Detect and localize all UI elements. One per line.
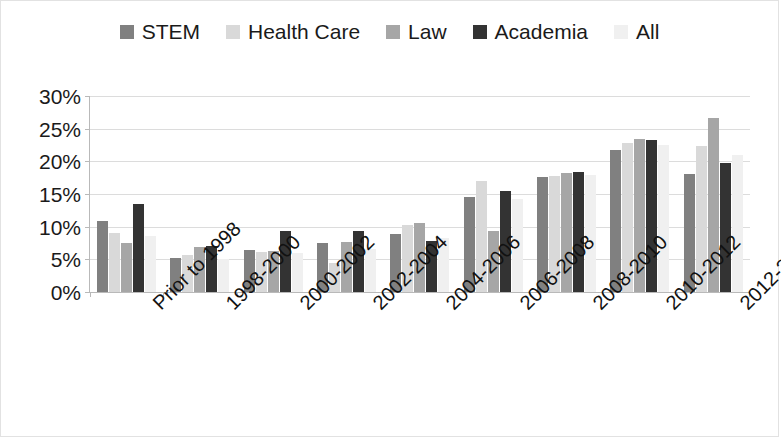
x-axis-category-label: Prior to 1998	[149, 299, 163, 313]
legend-swatch-icon	[614, 25, 628, 39]
x-axis-category-label: 1998-2000	[222, 299, 236, 313]
y-axis-tick-label: 25%	[39, 118, 81, 139]
bar-law[interactable]	[121, 243, 132, 292]
x-axis-category-label: 2000-2002	[296, 299, 310, 313]
legend-swatch-icon	[386, 25, 400, 39]
x-axis-category-label: 2008-2010	[589, 299, 603, 313]
y-axis-tick-label: 20%	[39, 151, 81, 172]
legend-swatch-icon	[473, 25, 487, 39]
legend-swatch-icon	[120, 25, 134, 39]
bar-academia[interactable]	[133, 204, 144, 292]
bar-all[interactable]	[218, 259, 229, 292]
legend-item-law[interactable]: Law	[386, 21, 447, 42]
bar-academia[interactable]	[720, 163, 731, 292]
x-axis-category-label: 2012-2014	[736, 299, 750, 313]
legend-swatch-icon	[226, 25, 240, 39]
bar-chart-figure: STEMHealth CareLawAcademiaAll 0%5%10%15%…	[0, 0, 779, 437]
bar-health-care[interactable]	[109, 233, 120, 292]
bar-stem[interactable]	[97, 221, 108, 292]
y-axis-tick-label: 15%	[39, 184, 81, 205]
bar-all[interactable]	[145, 236, 156, 292]
y-axis-tick-label: 5%	[51, 249, 81, 270]
y-axis-tick-label: 30%	[39, 86, 81, 107]
legend-item-all[interactable]: All	[614, 21, 659, 42]
legend-label: Health Care	[248, 21, 360, 42]
x-axis-category-labels: Prior to 19981998-20002000-20022002-2004…	[89, 293, 749, 433]
y-axis-tick-label: 10%	[39, 216, 81, 237]
legend-item-health-care[interactable]: Health Care	[226, 21, 360, 42]
x-axis-category-label: 2004-2006	[442, 299, 456, 313]
chart-legend: STEMHealth CareLawAcademiaAll	[1, 21, 778, 42]
y-axis-tick-labels: 0%5%10%15%20%25%30%	[15, 96, 81, 292]
x-axis-category-label: 2010-2012	[662, 299, 676, 313]
legend-label: All	[636, 21, 659, 42]
x-axis-category-label: 2006-2008	[516, 299, 530, 313]
legend-item-academia[interactable]: Academia	[473, 21, 588, 42]
legend-label: STEM	[142, 21, 200, 42]
bar-all[interactable]	[658, 145, 669, 292]
bar-group	[90, 96, 163, 292]
legend-item-stem[interactable]: STEM	[120, 21, 200, 42]
y-axis-tick-label: 0%	[51, 282, 81, 303]
x-axis-category-label: 2002-2004	[369, 299, 383, 313]
bar-all[interactable]	[732, 155, 743, 292]
bar-all[interactable]	[292, 253, 303, 292]
legend-label: Law	[408, 21, 447, 42]
legend-label: Academia	[495, 21, 588, 42]
